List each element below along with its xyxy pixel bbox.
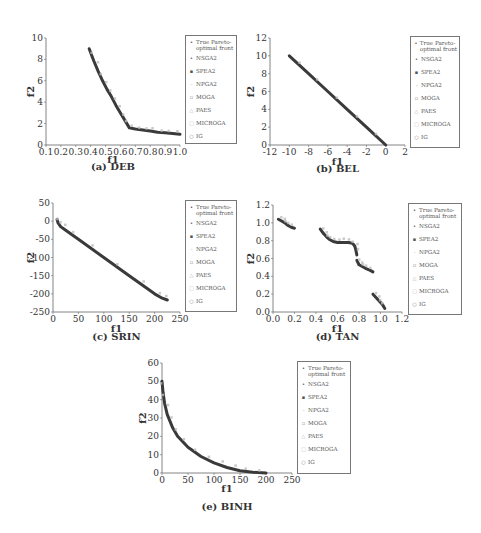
legend-label: NSGA2 [196, 55, 217, 61]
legend-label: SPEA2 [421, 69, 440, 75]
algorithm-marker [72, 231, 75, 234]
legend-marker-icon: • [412, 223, 417, 229]
y-tick-label: 0 [153, 468, 159, 478]
algorithm-marker [105, 81, 108, 84]
legend-item: □MICROGA [412, 288, 459, 294]
algorithm-marker [287, 222, 290, 225]
legend-item: •True Pareto-optimal front [301, 365, 348, 377]
x-tick-label: 200 [146, 314, 163, 324]
y-tick-label: 6 [261, 87, 267, 97]
algorithm-marker [291, 223, 294, 226]
legend-item: ○IG [414, 134, 457, 140]
legend-label: SPEA2 [196, 68, 215, 74]
legend-label: PAES [196, 272, 211, 278]
x-tick-label: 0 [50, 314, 56, 324]
legend-label: NPGA2 [196, 246, 217, 252]
chart-caption: (c) SRIN [92, 331, 140, 342]
legend-label: NSGA2 [308, 381, 329, 387]
legend-deb: •True Pareto-optimal front•NSGA2▪SPEA2-N… [185, 35, 237, 144]
legend-marker-icon: △ [301, 433, 306, 439]
legend-label: IG [196, 133, 203, 139]
y-tick-label: 8 [37, 54, 43, 64]
legend-marker-icon: ○ [189, 133, 194, 139]
legend-marker-icon: ○ [189, 298, 194, 304]
algorithm-marker [375, 133, 378, 136]
y-tick-label: -250 [30, 307, 50, 317]
x-tick-label: 100 [205, 475, 222, 485]
legend-label: MICROGA [196, 120, 226, 126]
algorithm-marker [336, 96, 339, 99]
legend-marker-icon: △ [414, 108, 419, 114]
algorithm-marker [99, 73, 102, 76]
legend-label: True Pareto-optimal front [196, 204, 233, 216]
y-tick-label: 30 [148, 413, 160, 423]
algorithm-marker [316, 78, 319, 81]
legend-item: -NPGA2 [412, 249, 459, 255]
legend-marker-icon: □ [412, 288, 417, 294]
legend-item: △PAES [414, 108, 457, 114]
legend-item: □MICROGA [189, 120, 234, 126]
y-tick-label: 0.4 [256, 271, 271, 281]
algorithm-marker [244, 467, 247, 470]
algorithm-marker [381, 302, 384, 305]
algorithm-marker [325, 231, 328, 234]
algorithm-marker [365, 264, 368, 267]
legend-marker-icon: ▪ [414, 69, 419, 75]
algorithm-marker [221, 460, 224, 463]
x-tick-label: 250 [171, 314, 188, 324]
y-tick-label: 0 [261, 140, 267, 150]
legend-label: MICROGA [421, 121, 451, 127]
algorithm-marker [118, 105, 121, 108]
algorithm-marker [165, 295, 168, 298]
legend-item: ▪SPEA2 [189, 233, 234, 239]
legend-item: ▪SPEA2 [414, 69, 457, 75]
y-tick-label: 60 [148, 358, 160, 368]
algorithm-marker [167, 130, 170, 133]
legend-item: △PAES [189, 272, 234, 278]
legend-item: ▫MOGA [189, 259, 234, 265]
legend-label: MOGA [196, 94, 215, 100]
algorithm-marker [130, 124, 133, 127]
legend-item: •True Pareto-optimal front [414, 40, 457, 52]
legend-label: IG [196, 298, 203, 304]
legend-label: NPGA2 [196, 81, 217, 87]
legend-label: True Pareto-optimal front [420, 40, 457, 52]
y-tick-label: 10 [256, 51, 268, 61]
legend-marker-icon: ▫ [189, 94, 194, 100]
y-tick-label: -150 [30, 271, 50, 281]
algorithm-marker [160, 129, 163, 132]
algorithm-marker [375, 292, 378, 295]
legend-marker-icon: • [189, 55, 194, 61]
chart-caption: (e) BINH [201, 501, 252, 512]
y-tick-label: 8 [261, 69, 267, 79]
algorithm-marker [90, 52, 93, 55]
legend-item: ▫MOGA [189, 94, 234, 100]
algorithm-marker [343, 237, 346, 240]
legend-label: PAES [421, 108, 436, 114]
x-tick-label: 0 [159, 475, 165, 485]
legend-label: MICROGA [196, 285, 226, 291]
legend-marker-icon: ○ [301, 459, 306, 465]
legend-marker-icon: - [412, 249, 417, 255]
legend-marker-icon: □ [189, 285, 194, 291]
legend-label: MOGA [308, 420, 327, 426]
chart-caption: (d) TAN [316, 331, 360, 342]
x-tick-label: -10 [282, 147, 297, 157]
legend-label: MOGA [419, 262, 438, 268]
algorithm-marker [369, 267, 372, 270]
legend-srin: •True Pareto-optimal front•NSGA2▪SPEA2-N… [185, 200, 237, 312]
legend-marker-icon: ○ [414, 134, 419, 140]
y-tick-label: 0.6 [256, 254, 271, 264]
algorithm-marker [97, 61, 100, 64]
legend-item: •NSGA2 [412, 223, 459, 229]
legend-marker-icon: ▫ [189, 259, 194, 265]
x-tick-label: 200 [257, 475, 274, 485]
y-tick-label: 50 [39, 198, 51, 208]
algorithm-marker [356, 115, 359, 118]
algorithm-marker [125, 120, 128, 123]
y-tick-label: 4 [261, 104, 267, 114]
y-axis-label: f2 [25, 86, 36, 97]
algorithm-marker [379, 299, 382, 302]
y-tick-label: 0 [44, 216, 50, 226]
x-axis-label: f1 [221, 483, 232, 494]
